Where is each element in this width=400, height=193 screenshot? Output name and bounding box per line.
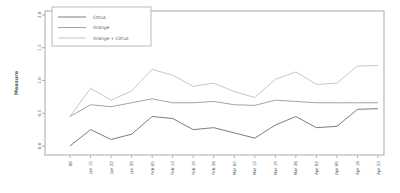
series-line-citrus [70, 109, 378, 146]
x-tick-label: Mar 05 [232, 161, 237, 176]
legend-label: Citrus [93, 15, 107, 20]
x-tick-label: Jan 22 [109, 161, 114, 175]
legend-label: Orange [93, 25, 110, 30]
y-tick-label: 0.5 [37, 110, 42, 117]
y-tick-label: 1.0 [37, 77, 42, 84]
x-tick-label: Apr 09 [334, 161, 339, 175]
x-tick-label: Mar 12 [252, 161, 257, 176]
x-tick-label: Jan 29 [129, 161, 134, 175]
x-tick-label: 08 [68, 161, 73, 167]
y-tick-label: 0.0 [37, 142, 42, 149]
x-tick-label: Feb 12 [170, 161, 175, 175]
x-tick-label: Jan 15 [88, 161, 93, 175]
x-tick-label: Feb 19 [191, 161, 196, 175]
y-tick-label: 2.0 [37, 11, 42, 18]
y-axis-title: Measure [13, 70, 19, 95]
y-tick-label: 1.5 [37, 44, 42, 51]
legend-label: Orange + Citrus [93, 36, 129, 41]
x-tick-label: Mar 19 [273, 161, 278, 176]
chart-svg: 0.00.51.01.52.008Jan 15Jan 22Jan 29Feb 0… [0, 0, 400, 193]
x-tick-label: Apr 16 [355, 161, 360, 175]
x-tick-label: Feb 05 [150, 161, 155, 175]
line-chart-figure: 0.00.51.01.52.008Jan 15Jan 22Jan 29Feb 0… [0, 0, 400, 193]
x-tick-label: Mar 26 [293, 161, 298, 176]
x-tick-label: Apr 23 [376, 161, 381, 175]
legend: CitrusOrangeOrange + Citrus [52, 7, 151, 46]
series-line-orange-citrus [70, 65, 378, 116]
series-line-orange [70, 99, 378, 117]
x-tick-label: Feb 26 [211, 161, 216, 175]
x-tick-label: Apr 02 [314, 161, 319, 175]
